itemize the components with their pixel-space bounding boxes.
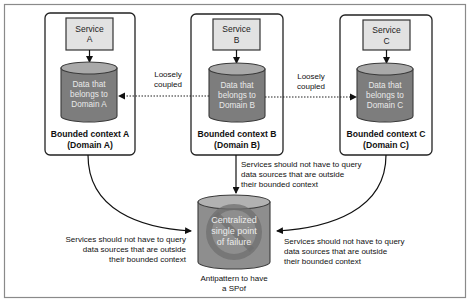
note-right-line-1: Services should not have to query	[284, 237, 405, 246]
data-b-line-2: belongs to	[218, 91, 256, 100]
context-a-label-1: Bounded context A	[51, 129, 129, 139]
spof-line-2: single point	[211, 226, 257, 236]
note-left-line-1: Services should not have to query	[65, 235, 186, 244]
data-a-line-2: belongs to	[70, 90, 108, 99]
context-b-label-1: Bounded context B	[198, 129, 277, 139]
service-b-label-1: Service	[222, 24, 251, 34]
bounded-context-a: Service A Data that belongs to Domain A …	[45, 13, 135, 155]
service-b-label-2: B	[234, 35, 240, 45]
note-left-line-3: their bounded context	[109, 255, 187, 264]
coupling-bc-label-1: Loosely	[297, 72, 325, 81]
spof-line-3: of failure	[217, 237, 252, 247]
spof-caption-line-2: a SPof	[222, 284, 247, 293]
service-a-label-1: Service	[75, 24, 104, 34]
note-right-line-3: their bounded context	[284, 257, 362, 266]
note-center-line-2: data sources that are outside	[241, 170, 345, 179]
bounded-context-b: Service B Data that belongs to Domain B …	[191, 14, 283, 155]
service-c-label-1: Service	[372, 25, 401, 35]
service-c-label-2: C	[383, 36, 389, 46]
context-c-label-2: (Domain C)	[363, 140, 409, 150]
spof-caption-line-1: Antipattern to have	[200, 274, 268, 283]
data-c-line-2: belongs to	[366, 91, 404, 100]
data-b-line-1: Data that	[220, 81, 254, 90]
coupling-ab-label-1: Loosely	[154, 70, 182, 79]
context-a-label-2: (Domain A)	[67, 140, 113, 150]
data-c-line-1: Data that	[368, 81, 402, 90]
context-c-label-1: Bounded context C	[347, 129, 426, 139]
diagram-canvas: Service A Data that belongs to Domain A …	[0, 0, 473, 305]
note-center-line-3: their bounded context	[241, 180, 319, 189]
coupling-bc-label-2: coupled	[297, 82, 325, 91]
note-center-line-1: Services should not have to query	[241, 160, 362, 169]
service-a-label-2: A	[87, 34, 93, 44]
coupling-ab-label-2: coupled	[154, 80, 182, 89]
spof-line-1: Centralized	[211, 215, 257, 225]
context-b-label-2: (Domain B)	[214, 140, 260, 150]
data-a-line-3: Domain A	[71, 100, 107, 109]
data-a-line-1: Data that	[72, 80, 106, 89]
data-b-line-3: Domain B	[219, 101, 255, 110]
data-c-line-3: Domain C	[367, 101, 403, 110]
note-left-line-2: data sources that are outside	[83, 245, 187, 254]
note-right-line-2: data sources that are outside	[284, 247, 388, 256]
bounded-context-c: Service C Data that belongs to Domain C …	[340, 15, 432, 155]
